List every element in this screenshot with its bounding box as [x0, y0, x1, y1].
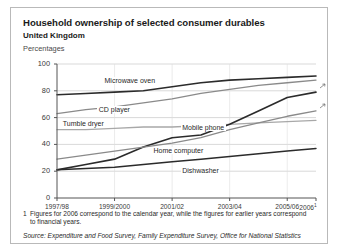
x-tick-label: 2001/02 [144, 203, 200, 210]
x-tick-label: 1999/2000 [87, 203, 143, 210]
trend-arrow-markers [320, 84, 325, 108]
y-tick-20: 20 [32, 166, 50, 175]
footnote-marker: 1 [23, 210, 30, 218]
series-label-tumble-dryer: Tumble dryer [61, 120, 105, 127]
chart-footnote: 1Figures for 2006 correspond to the cale… [23, 210, 319, 227]
y-tick-100: 100 [32, 59, 50, 68]
chart-source: Source: Expenditure and Food Survey, Fam… [23, 232, 319, 239]
y-tick-40: 40 [32, 139, 50, 148]
chart-figure: Household ownership of selected consumer… [10, 7, 328, 244]
y-tick-0: 0 [32, 193, 50, 202]
series-label-mobile-phone: Mobile phone [181, 124, 226, 131]
series-label-dishwasher: Dishwasher [181, 167, 221, 174]
series-label-home-computer: Home computer [152, 147, 205, 154]
footnote-text: Figures for 2006 correspond to the calen… [30, 210, 312, 227]
series-label-microwave-oven: Microwave oven [103, 77, 157, 84]
x-tick-label: 1997/98 [29, 203, 85, 210]
y-tick-60: 60 [32, 113, 50, 122]
series-label-cd-player: CD player [97, 106, 131, 113]
x-tick-label: 2003/04 [202, 203, 258, 210]
y-tick-80: 80 [32, 86, 50, 95]
